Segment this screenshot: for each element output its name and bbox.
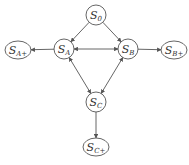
node-sa: SA — [54, 39, 74, 59]
edge-sa-to-sa-plus — [31, 49, 54, 50]
node-sb: SB — [118, 39, 138, 59]
node-sc: SC — [86, 92, 106, 112]
node-sc-plus: SC+ — [83, 138, 109, 156]
edge-sb-to-sc — [101, 58, 123, 94]
edge-s0-to-sb — [103, 22, 121, 41]
node-sb-plus: SB+ — [161, 41, 187, 59]
edge-sa-to-sc — [69, 58, 91, 94]
node-sa-plus: SA+ — [5, 41, 31, 59]
edge-sb-to-sb-plus — [138, 49, 161, 50]
state-diagram: S0SASBSA+SB+SCSC+ — [0, 0, 189, 165]
node-s0: S0 — [86, 5, 106, 25]
edges-layer — [31, 22, 161, 138]
edge-s0-to-sa — [71, 22, 89, 41]
